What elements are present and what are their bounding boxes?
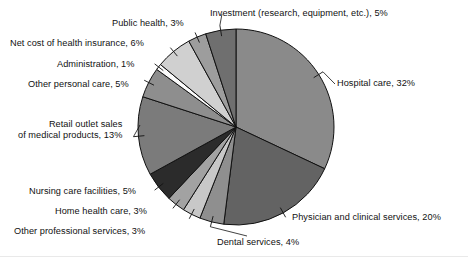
slice-label-administration: Administration, 1% — [57, 59, 135, 70]
slice-label-investment: Investment (research, equipment, etc.), … — [210, 8, 388, 19]
slice-label-physician-and-clinical-services: Physician and clinical services, 20% — [292, 212, 441, 223]
slice-label-other-professional-services: Other professional services, 3% — [14, 226, 145, 237]
pie-chart-figure: Investment (research, equipment, etc.), … — [0, 0, 468, 260]
slice-label-nursing-care-facilities: Nursing care facilities, 5% — [29, 186, 136, 197]
slice-label-dental-services: Dental services, 4% — [217, 237, 299, 248]
slice-label-net-cost-of-health-insurance: Net cost of health insurance, 6% — [10, 38, 144, 49]
leader-line — [323, 72, 335, 84]
bottom-divider — [0, 256, 468, 257]
slice-label-other-personal-care: Other personal care, 5% — [28, 79, 129, 90]
slice-label-hospital-care: Hospital care, 32% — [337, 78, 415, 89]
slice-label-retail-outlet-sales: Retail outlet sales of medical products,… — [18, 119, 122, 141]
pie-slices-group — [138, 29, 334, 225]
slice-label-home-health-care: Home health care, 3% — [55, 206, 147, 217]
leader-line — [210, 227, 247, 236]
slice-label-public-health: Public health, 3% — [112, 18, 184, 29]
